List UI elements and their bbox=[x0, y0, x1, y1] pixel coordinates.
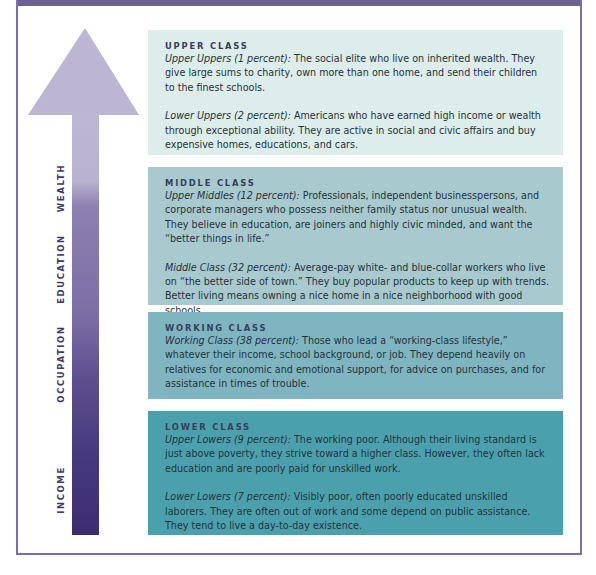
class-entry: Upper Uppers (1 percent): The social eli… bbox=[165, 52, 549, 95]
axis-label-wealth: WEALTH bbox=[56, 164, 66, 212]
entry-term: Middle Class (32 percent): bbox=[165, 262, 291, 273]
entry-term: Working Class (38 percent): bbox=[165, 335, 299, 346]
class-entry: Working Class (38 percent): Those who le… bbox=[165, 334, 549, 392]
class-entry: Upper Middles (12 percent): Professional… bbox=[165, 189, 549, 247]
class-entry: Lower Uppers (2 percent): Americans who … bbox=[165, 109, 549, 152]
class-title: WORKING CLASS bbox=[165, 322, 549, 334]
class-entry: Lower Lowers (7 percent): Visibly poor, … bbox=[165, 490, 549, 533]
axis-label-income: INCOME bbox=[56, 466, 66, 514]
upper-class-box: UPPER CLASS Upper Uppers (1 percent): Th… bbox=[148, 30, 563, 155]
class-entry: Upper Lowers (9 percent): The working po… bbox=[165, 433, 549, 476]
up-arrow-icon bbox=[0, 0, 150, 575]
entry-term: Upper Uppers (1 percent): bbox=[165, 53, 291, 64]
class-entry: Middle Class (32 percent): Average-pay w… bbox=[165, 261, 549, 319]
working-class-box: WORKING CLASS Working Class (38 percent)… bbox=[148, 312, 563, 399]
class-title: LOWER CLASS bbox=[165, 421, 549, 433]
axis-label-education: EDUCATION bbox=[56, 234, 66, 304]
arrow-head bbox=[28, 28, 139, 115]
entry-term: Lower Uppers (2 percent): bbox=[165, 110, 291, 121]
class-title: MIDDLE CLASS bbox=[165, 177, 549, 189]
entry-term: Upper Middles (12 percent): bbox=[165, 190, 300, 201]
class-title: UPPER CLASS bbox=[165, 40, 549, 52]
entry-term: Upper Lowers (9 percent): bbox=[165, 434, 291, 445]
axis-label-occupation: OCCUPATION bbox=[56, 325, 66, 402]
entry-term: Lower Lowers (7 percent): bbox=[165, 491, 291, 502]
arrow-shaft bbox=[72, 114, 99, 535]
lower-class-box: LOWER CLASS Upper Lowers (9 percent): Th… bbox=[148, 411, 563, 535]
middle-class-box: MIDDLE CLASS Upper Middles (12 percent):… bbox=[148, 167, 563, 305]
